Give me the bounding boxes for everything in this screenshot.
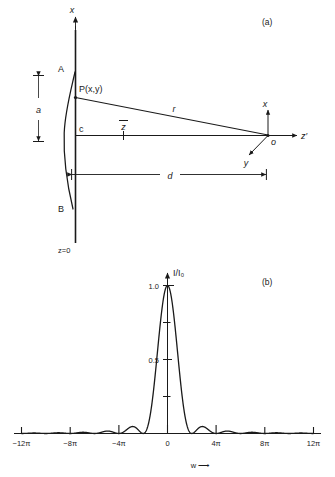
point-a-label: A <box>58 64 64 74</box>
chart-x-tick-label-4: 4π <box>211 439 220 448</box>
chart-x-tick-label-0: −12π <box>13 439 31 448</box>
plane-z0-label: z=0 <box>58 246 70 255</box>
origin-axes-group: x z′ y o <box>243 99 308 168</box>
chart-y-tick-label-1: 1.0 <box>149 282 159 291</box>
origin-zprime-axis-label: z′ <box>300 131 308 141</box>
chart-x-axis-label: w ⟶ <box>190 461 211 470</box>
aperture-curve <box>64 72 75 209</box>
chart-x-ticks: −12π −8π −4π 0 4π 8π 12π <box>13 425 321 448</box>
aperture-height-dimension: a <box>33 76 44 142</box>
origin-y-axis-label: y <box>243 158 249 168</box>
chart-y-axis-label: I/I₀ <box>173 268 185 278</box>
chart-x-tick-label-1: −8π <box>63 439 77 448</box>
chart-x-tick-label-2: −4π <box>112 439 126 448</box>
panel-b-chart: I/I₀ 1.0 0.5 −12π −8π −4π 0 4π 8π 12π w … <box>0 255 335 477</box>
origin-x-axis-label: x <box>262 99 268 109</box>
chart-y-ticks: 1.0 0.5 <box>149 282 174 397</box>
point-b-label: B <box>58 204 64 214</box>
panel-b-tag: (b) <box>262 277 273 287</box>
origin-label: o <box>271 137 276 147</box>
zbar-label: z <box>120 122 126 132</box>
chart-x-tick-label-5: 8π <box>260 439 269 448</box>
point-c-label: c <box>79 124 84 134</box>
ray-r-label: r <box>173 104 177 114</box>
panel-a-tag: (a) <box>262 17 273 27</box>
origin-y-axis <box>249 136 268 156</box>
chart-x-tick-label-3: 0 <box>165 439 169 448</box>
zbar-label-group: z <box>119 121 128 133</box>
figure-container: x A B a P(x,y) r c z x z′ y o <box>0 0 335 477</box>
panel-a-diagram: x A B a P(x,y) r c z x z′ y o <box>0 0 335 255</box>
chart-x-tick-label-6: 12π <box>307 439 321 448</box>
panel-a-x-axis-label: x <box>69 5 75 15</box>
aperture-height-label: a <box>36 105 41 115</box>
point-p-label: P(x,y) <box>79 84 103 94</box>
distance-d-dimension: d <box>72 167 267 181</box>
